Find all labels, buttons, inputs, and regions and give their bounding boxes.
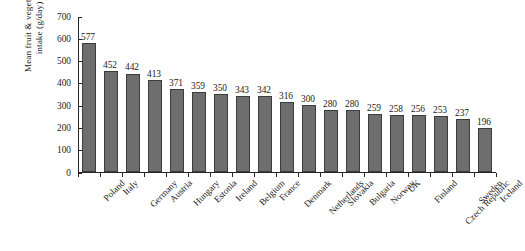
bar	[192, 92, 207, 172]
bar	[368, 114, 383, 172]
x-tick	[232, 173, 233, 177]
y-tick-label: 600	[57, 33, 71, 46]
x-tick	[364, 173, 365, 177]
y-axis-title: Mean fruit & vegetable intake (g/day)	[16, 0, 52, 108]
bar-value-label: 577	[71, 32, 105, 43]
plot-area: 0100200300400500600700 57745244241337135…	[78, 17, 496, 173]
bar	[280, 102, 295, 172]
x-category-label-text: Ireland	[234, 178, 260, 204]
bar	[236, 96, 251, 172]
bar	[126, 74, 141, 173]
x-tick	[166, 173, 167, 177]
y-tick-label: 200	[57, 122, 71, 135]
bar-value-label: 196	[467, 117, 501, 128]
x-tick	[254, 173, 255, 177]
bar	[170, 89, 185, 172]
bar	[478, 128, 493, 172]
x-tick	[210, 173, 211, 177]
x-tick	[100, 173, 101, 177]
y-tick-label: 400	[57, 77, 71, 90]
x-tick	[496, 173, 497, 177]
x-category-label: Ireland	[234, 178, 260, 204]
x-tick	[452, 173, 453, 177]
bar	[434, 116, 449, 172]
bar	[412, 115, 427, 172]
x-tick	[298, 173, 299, 177]
bar	[258, 96, 273, 172]
y-tick-label: 700	[57, 11, 71, 24]
y-tick-mark	[78, 17, 82, 18]
x-tick	[188, 173, 189, 177]
y-tick-label: 0	[66, 167, 71, 180]
y-tick-label: 100	[57, 144, 71, 157]
bar	[148, 80, 163, 172]
x-category-label: Finland	[432, 178, 460, 206]
x-tick	[144, 173, 145, 177]
bar	[104, 71, 119, 172]
bar	[390, 115, 405, 172]
y-tick-label: 500	[57, 55, 71, 68]
x-tick	[342, 173, 343, 177]
x-category-label: Denmark	[302, 178, 334, 210]
y-tick-label: 300	[57, 100, 71, 113]
x-tick	[430, 173, 431, 177]
bar	[346, 110, 361, 172]
x-axis-line	[78, 172, 496, 173]
x-tick	[320, 173, 321, 177]
bar	[324, 110, 339, 172]
x-tick	[78, 173, 79, 177]
x-tick	[408, 173, 409, 177]
bar	[302, 105, 317, 172]
x-tick	[474, 173, 475, 177]
x-tick	[122, 173, 123, 177]
x-tick	[276, 173, 277, 177]
x-category-label-text: Finland	[432, 178, 460, 206]
x-tick	[386, 173, 387, 177]
bar	[214, 94, 229, 172]
x-category-label-text: Denmark	[302, 178, 334, 210]
